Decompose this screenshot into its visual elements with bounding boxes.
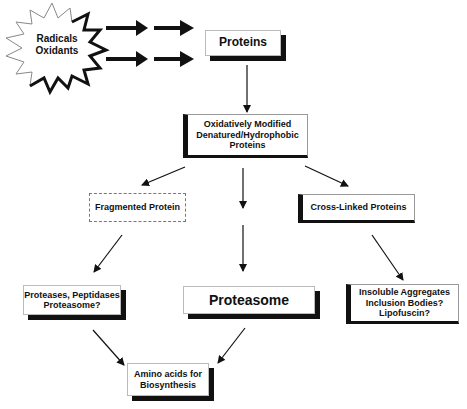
node-label: Fragmented Protein	[95, 202, 180, 212]
node-modified: Oxidatively Modified Denatured/Hydrophob…	[183, 114, 308, 158]
arrow-fragmented-proteases	[94, 235, 122, 272]
arrow-crosslinked-aggregates	[372, 235, 403, 280]
node-label: Insoluble Aggregates Inclusion Bodies? L…	[359, 287, 450, 318]
arrow-proteases-aminoacids	[93, 330, 124, 365]
node-proteasome: Proteasome	[183, 286, 315, 314]
node-aminoacids: Amino acids for Biosynthesis	[127, 363, 209, 396]
arrow-modified-fragmented	[142, 167, 185, 185]
node-proteins: Proteins	[205, 30, 281, 56]
diagram-canvas: Radicals Oxidants Proteins Oxidatively M…	[0, 0, 467, 409]
node-label: Proteins	[219, 36, 267, 50]
node-label: Amino acids for Biosynthesis	[134, 369, 202, 390]
node-fragmented: Fragmented Protein	[89, 193, 186, 222]
source-label: Radicals Oxidants	[30, 33, 84, 56]
node-crosslinked: Cross-Linked Proteins	[298, 194, 415, 223]
node-label: Proteases, Peptidases Proteasome?	[24, 290, 120, 311]
thick-arrows	[106, 20, 194, 67]
node-aggregates: Insoluble Aggregates Inclusion Bodies? L…	[346, 284, 459, 324]
arrow-proteasome-aminoacids	[218, 328, 245, 363]
arrow-modified-crosslinked	[305, 166, 348, 186]
node-label: Proteasome	[209, 292, 289, 308]
node-label: Cross-Linked Proteins	[310, 202, 406, 212]
node-proteases: Proteases, Peptidases Proteasome?	[23, 285, 121, 315]
node-label: Oxidatively Modified Denatured/Hydrophob…	[196, 119, 299, 150]
